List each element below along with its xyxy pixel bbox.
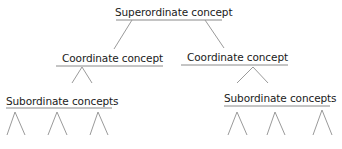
sub-left-branch-1 bbox=[7, 112, 25, 135]
sub-right-branch-1 bbox=[228, 112, 247, 135]
edge-super-to-coord-right bbox=[205, 20, 224, 48]
subordinate-concepts-left-label: Subordinate concepts bbox=[6, 95, 118, 107]
sub-left-branch-2 bbox=[48, 112, 67, 135]
sub-right-branch-3 bbox=[313, 110, 332, 135]
diagram-lines bbox=[0, 0, 342, 149]
edge-coord-right-to-sub bbox=[237, 67, 268, 83]
coordinate-concept-left-label: Coordinate concept bbox=[62, 52, 163, 64]
sub-left-branch-3 bbox=[90, 112, 108, 135]
coordinate-concept-right-label: Coordinate concept bbox=[187, 51, 288, 63]
superordinate-concept-label: Superordinate concept bbox=[115, 6, 232, 18]
edge-coord-left-to-sub bbox=[72, 67, 92, 83]
concept-hierarchy-diagram: Superordinate concept Coordinate concept… bbox=[0, 0, 342, 149]
subordinate-concepts-right-label: Subordinate concepts bbox=[224, 92, 336, 104]
sub-right-branch-2 bbox=[267, 112, 285, 135]
edge-super-to-coord-left bbox=[114, 20, 132, 49]
